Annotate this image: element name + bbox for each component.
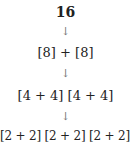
down-arrow-icon: ↓ (0, 110, 131, 123)
down-arrow-icon: ↓ (0, 25, 131, 38)
level-2: [4 + 4] [4 + 4] (0, 88, 131, 103)
down-arrow-icon: ↓ (0, 67, 131, 80)
level-1: [8] + [8] (0, 45, 131, 60)
level-3: [2 + 2] [2 + 2] [2 + 2] [2 + 2] (0, 129, 131, 143)
root-number: 16 (0, 4, 131, 20)
